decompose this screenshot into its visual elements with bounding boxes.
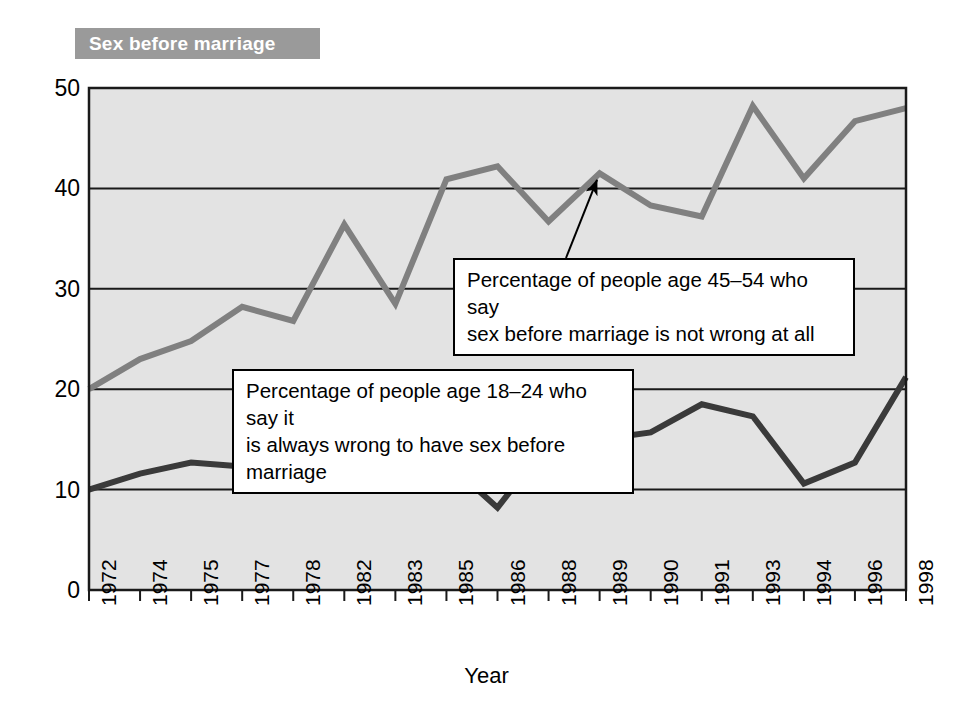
x-axis-tick-label: 1986 xyxy=(506,559,530,606)
x-axis-tick-label: 1998 xyxy=(914,559,938,606)
x-axis-tick-label: 1978 xyxy=(301,559,325,606)
x-axis-tick-label: 1982 xyxy=(352,559,376,606)
x-axis-tick-label: 1983 xyxy=(403,559,427,606)
x-axis-tick-label: 1990 xyxy=(659,559,683,606)
x-axis-tick-label: 1991 xyxy=(710,559,734,606)
annotation-callout-age-45-54: Percentage of people age 45–54 who say s… xyxy=(453,258,855,356)
chart-figure: Sex before marriage 01020304050 19721974… xyxy=(0,0,973,703)
x-axis-tick-label: 1988 xyxy=(557,559,581,606)
x-axis-tick-label: 1972 xyxy=(97,559,121,606)
x-axis-tick-label: 1996 xyxy=(863,559,887,606)
x-axis-tick-label: 1993 xyxy=(761,559,785,606)
x-axis-title: Year xyxy=(0,663,973,689)
x-axis-tick-label: 1975 xyxy=(199,559,223,606)
x-axis-tick-label: 1989 xyxy=(608,559,632,606)
x-axis-tick-label: 1985 xyxy=(454,559,478,606)
x-axis-tick-label: 1994 xyxy=(812,559,836,606)
annotation-callout-age-18-24: Percentage of people age 18–24 who say i… xyxy=(232,369,634,494)
x-axis-tick-label: 1977 xyxy=(250,559,274,606)
x-axis-tick-label: 1974 xyxy=(148,559,172,606)
